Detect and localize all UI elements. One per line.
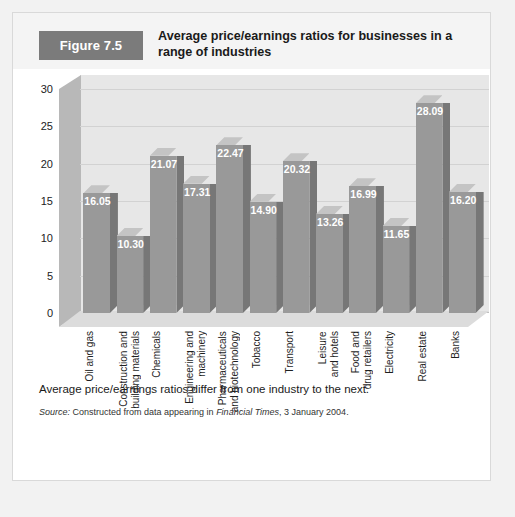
bar: 10.30 (117, 236, 144, 313)
bar-front-face (83, 193, 110, 313)
bar-front-face (183, 184, 210, 313)
bar-top-face (383, 218, 410, 226)
bar-value-label: 13.26 (317, 216, 343, 228)
x-axis-category-label: Banks (450, 331, 462, 359)
x-axis-category-label: Tobacco (251, 331, 263, 368)
bar-top-face (316, 206, 343, 214)
bar: 22.47 (216, 145, 243, 313)
bar-front-face (216, 145, 243, 313)
bars-layer: 16.0510.3021.0717.3122.4714.9020.3213.26… (59, 75, 489, 327)
bar-top-face (150, 148, 177, 156)
figure-card: Figure 7.5 Average price/earnings ratios… (12, 12, 491, 481)
y-axis-tick-label: 20 (41, 158, 53, 170)
x-axis-category-label: Electricity (384, 331, 396, 374)
bar-value-label: 21.07 (151, 158, 177, 170)
figure-source: Source: Constructed from data appearing … (39, 407, 469, 417)
bar-front-face (250, 202, 277, 313)
y-axis-tick-label: 25 (41, 120, 53, 132)
bar: 20.32 (283, 161, 310, 313)
bar-front-face (349, 186, 376, 313)
bar: 21.07 (150, 156, 177, 313)
bar: 13.26 (316, 214, 343, 313)
x-axis-category-label: Construction and building materials (118, 331, 141, 409)
source-lead: Source: (39, 407, 70, 417)
bar-top-face (216, 137, 243, 145)
y-axis-tick-label: 15 (41, 195, 53, 207)
bar-top-face (449, 184, 476, 192)
bar-top-face (416, 95, 443, 103)
bar-top-face (250, 194, 277, 202)
bar-front-face (150, 156, 177, 313)
x-axis-category-label: Chemicals (151, 331, 163, 378)
bar: 17.31 (183, 184, 210, 313)
bar: 16.20 (449, 192, 476, 313)
figure-title: Average price/earnings ratios for busine… (158, 29, 473, 60)
chart-region: 051015202530 16.0510.3021.0717.3122.4714… (13, 75, 490, 435)
bar: 11.65 (383, 226, 410, 313)
source-text-1: Constructed from data appearing in (70, 407, 216, 417)
bar-value-label: 16.05 (84, 195, 110, 207)
bar-front-face (283, 161, 310, 313)
bar-top-face (83, 185, 110, 193)
bar-front-face (416, 103, 443, 313)
figure-caption: Average price/earnings ratios differ fro… (39, 383, 469, 395)
bar-value-label: 16.20 (450, 194, 476, 206)
bar-value-label: 20.32 (284, 163, 310, 175)
figure-header: Figure 7.5 Average price/earnings ratios… (13, 13, 490, 69)
x-axis-category-label: Transport (284, 331, 296, 373)
bar-side-face (476, 192, 484, 313)
bar: 16.99 (349, 186, 376, 313)
x-axis-category-label: Leisure and hotels (317, 331, 340, 377)
source-publication: Financial Times (216, 407, 279, 417)
bar-value-label: 28.09 (417, 105, 443, 117)
y-axis-tick-label: 5 (47, 270, 53, 282)
y-axis-tick-label: 30 (41, 83, 53, 95)
bar-value-label: 14.90 (251, 204, 277, 216)
x-axis-category-label: Food and drug retailers (350, 331, 373, 389)
y-axis: 051015202530 (13, 75, 59, 325)
x-axis-category-label: Real estate (417, 331, 429, 382)
bar-top-face (349, 178, 376, 186)
bar-value-label: 11.65 (384, 228, 410, 240)
y-axis-tick-label: 10 (41, 232, 53, 244)
bar-front-face (316, 214, 343, 313)
bar: 28.09 (416, 103, 443, 313)
bar: 16.05 (83, 193, 110, 313)
bar-value-label: 16.99 (350, 188, 376, 200)
plot-area: 16.0510.3021.0717.3122.4714.9020.3213.26… (59, 75, 489, 327)
bar-value-label: 10.30 (118, 238, 144, 250)
bar-top-face (183, 176, 210, 184)
bar: 14.90 (250, 202, 277, 313)
bar-front-face (449, 192, 476, 313)
x-axis-category-label: Oil and gas (84, 331, 96, 382)
source-text-2: , 3 January 2004. (279, 407, 349, 417)
x-axis-category-label: Pharmaceuticals and biotechnology (217, 331, 240, 412)
bar-top-face (117, 228, 144, 236)
bar-value-label: 22.47 (217, 147, 243, 159)
bar-value-label: 17.31 (184, 186, 210, 198)
figure-number-badge: Figure 7.5 (39, 31, 143, 60)
bar-top-face (283, 153, 310, 161)
y-axis-tick-label: 0 (47, 307, 53, 319)
